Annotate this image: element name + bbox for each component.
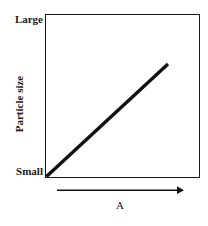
arrow-right-icon: [177, 186, 184, 194]
figure-container: Particle size Large Small A: [0, 0, 208, 226]
y-axis-max-label: Large: [0, 13, 43, 25]
y-axis-title: Particle size: [13, 58, 25, 150]
x-axis-title: A: [57, 199, 183, 211]
plot-frame: [45, 14, 200, 178]
y-axis-min-label: Small: [0, 165, 43, 177]
